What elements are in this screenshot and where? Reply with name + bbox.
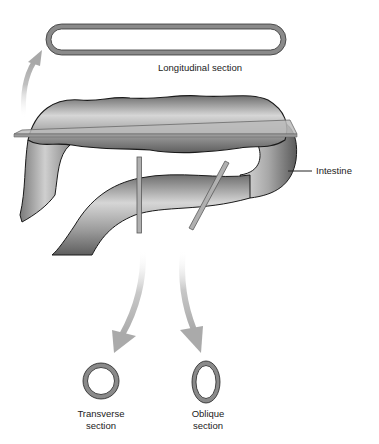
oblique-label-line1: Oblique	[173, 408, 243, 420]
arrow-to-transverse-icon	[112, 250, 143, 353]
transverse-section-label: Transverse section	[66, 408, 136, 432]
oblique-section-shape	[192, 361, 220, 403]
longitudinal-section-shape	[46, 24, 286, 55]
transverse-cutting-plane	[137, 157, 142, 233]
intestine-lower-tube	[52, 175, 250, 255]
intestine-label: Intestine	[316, 165, 352, 177]
arrow-to-oblique-icon	[180, 250, 203, 353]
arrow-to-longitudinal-icon	[23, 50, 42, 118]
transverse-section-shape	[83, 363, 119, 399]
transverse-label-line1: Transverse	[66, 408, 136, 420]
transverse-label-line2: section	[66, 420, 136, 432]
intestine-left-limb	[20, 140, 70, 222]
longitudinal-section-label: Longitudinal section	[120, 62, 280, 74]
oblique-label-line2: section	[173, 420, 243, 432]
oblique-section-label: Oblique section	[173, 408, 243, 432]
